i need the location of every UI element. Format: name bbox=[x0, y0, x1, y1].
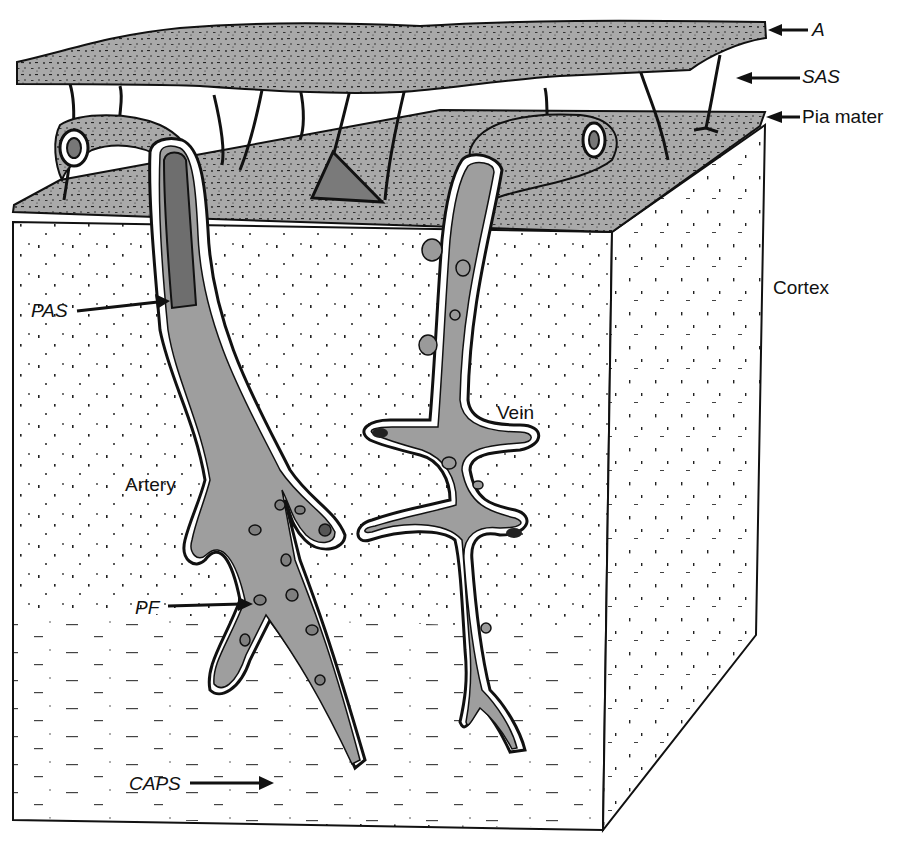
vein-branch-end bbox=[506, 528, 522, 538]
diagram-canvas: A SAS Pia mater Cortex PAS Artery Vein P… bbox=[0, 0, 899, 841]
artery-cross-section-lumen bbox=[67, 138, 81, 158]
arachnoid-layer bbox=[17, 21, 766, 93]
label-pf: PF bbox=[135, 598, 159, 617]
label-vein: Vein bbox=[497, 403, 534, 422]
label-sas: SAS bbox=[802, 67, 840, 86]
label-arachnoid: A bbox=[812, 20, 825, 39]
vein-cross-section-lumen bbox=[589, 131, 599, 149]
label-cortex: Cortex bbox=[773, 278, 829, 297]
vein-branch-end bbox=[372, 428, 388, 438]
label-caps: CAPS bbox=[129, 774, 181, 793]
label-pas: PAS bbox=[31, 301, 68, 320]
label-pia-mater: Pia mater bbox=[802, 107, 883, 126]
label-artery: Artery bbox=[125, 475, 176, 494]
cortex-right-face bbox=[603, 125, 765, 830]
anatomy-illustration bbox=[0, 0, 899, 841]
